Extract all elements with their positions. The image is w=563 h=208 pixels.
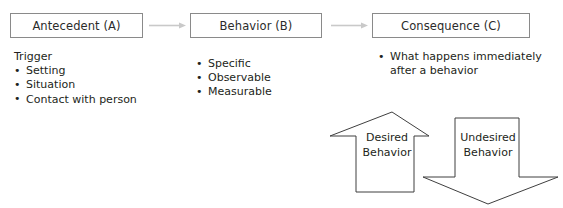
flow-box-consequence: Consequence (C): [372, 13, 530, 38]
detail-column-behavior: Specific Observable Measurable: [196, 57, 346, 100]
behavior-bullet-list: Specific Observable Measurable: [196, 57, 346, 100]
arrow-right-icon-behavior-to-consequence: [330, 20, 370, 31]
block-arrow-up-label-line1: Desired: [352, 131, 422, 146]
list-item: Measurable: [196, 85, 346, 99]
list-item: Contact with person: [14, 93, 179, 107]
flow-box-antecedent: Antecedent (A): [10, 13, 143, 38]
arrow-right-icon-antecedent-to-behavior: [148, 20, 188, 31]
consequence-bullet-list: What happens immediately after a behavio…: [378, 50, 558, 78]
block-arrow-down-label-line2: Behavior: [452, 146, 524, 161]
flow-box-consequence-label: Consequence (C): [401, 19, 501, 33]
block-arrow-down-label: Undesired Behavior: [452, 131, 524, 160]
antecedent-bullet-list: Setting Situation Contact with person: [14, 64, 179, 107]
abc-behavior-diagram: Antecedent (A) Behavior (B) Consequence …: [0, 0, 563, 208]
flow-box-behavior: Behavior (B): [190, 13, 322, 38]
block-arrow-up-label: Desired Behavior: [352, 131, 422, 160]
list-item: Setting: [14, 64, 179, 78]
flow-box-antecedent-label: Antecedent (A): [32, 19, 120, 33]
antecedent-heading: Trigger: [14, 50, 179, 64]
flow-box-behavior-label: Behavior (B): [220, 19, 293, 33]
list-item: Situation: [14, 78, 179, 92]
block-arrow-down-label-line1: Undesired: [452, 131, 524, 146]
list-item: Observable: [196, 71, 346, 85]
block-arrow-up-label-line2: Behavior: [352, 146, 422, 161]
detail-column-antecedent: Trigger Setting Situation Contact with p…: [14, 50, 179, 107]
list-item: Specific: [196, 57, 346, 71]
list-item: What happens immediately after a behavio…: [378, 50, 558, 78]
detail-column-consequence: What happens immediately after a behavio…: [378, 50, 558, 78]
